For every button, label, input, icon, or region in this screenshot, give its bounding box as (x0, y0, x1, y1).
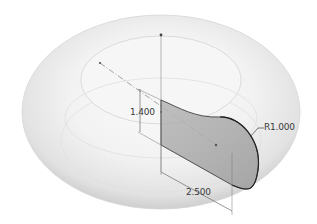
height-dimension-label: 1.400 (130, 108, 155, 117)
radius-dimension-label: R1.000 (264, 123, 295, 132)
centerline-point (160, 111, 162, 113)
length-dimension-label: 2.500 (186, 188, 211, 197)
torus-diagram (0, 0, 317, 224)
axis-point (160, 34, 163, 37)
centerline-endpoint (99, 62, 101, 64)
arc-center-point (215, 144, 217, 146)
